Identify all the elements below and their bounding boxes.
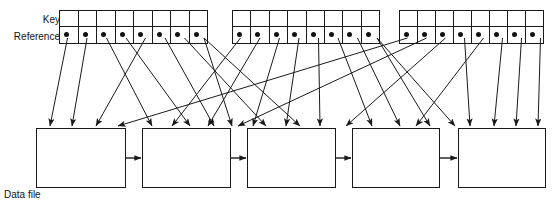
reference-cell[interactable] [471, 26, 490, 44]
reference-pointer-dot-icon [292, 32, 297, 37]
pointer-2-6 [338, 38, 372, 126]
reference-pointer-dot-icon [274, 32, 279, 37]
key-cell[interactable] [78, 10, 98, 27]
reference-row [60, 27, 216, 44]
reference-pointer-dot-icon [237, 32, 242, 37]
reference-pointer-dot-icon [101, 32, 106, 37]
index-block-2 [233, 10, 388, 44]
reference-cell[interactable] [78, 26, 98, 44]
reference-pointer-dot-icon [157, 32, 162, 37]
pointer-2-4 [286, 38, 299, 126]
reference-cell[interactable] [489, 26, 508, 44]
reference-cell[interactable] [59, 26, 79, 44]
reference-cell[interactable] [342, 26, 361, 44]
key-cell[interactable] [342, 10, 361, 27]
pointer-1-2 [72, 38, 87, 126]
reference-cell[interactable] [96, 26, 116, 44]
key-cell[interactable] [417, 10, 436, 27]
key-cell[interactable] [189, 10, 209, 27]
key-cell[interactable] [232, 10, 251, 27]
reference-pointer-dot-icon [530, 32, 535, 37]
key-row [233, 10, 388, 27]
key-cell[interactable] [435, 10, 454, 27]
data-box-1[interactable] [36, 128, 126, 188]
pointer-3-8 [538, 38, 541, 126]
pointer-link-group [50, 38, 541, 126]
key-cell[interactable] [507, 10, 526, 27]
reference-cell[interactable] [170, 26, 190, 44]
key-cell[interactable] [96, 10, 116, 27]
reference-pointer-dot-icon [366, 32, 371, 37]
key-cell[interactable] [399, 10, 418, 27]
pointer-2-5 [319, 38, 321, 126]
reference-cell[interactable] [115, 26, 135, 44]
reference-pointer-dot-icon [175, 32, 180, 37]
pointer-2-8 [377, 38, 430, 126]
key-cell[interactable] [361, 10, 380, 27]
data-box-2[interactable] [142, 128, 231, 188]
key-cell[interactable] [250, 10, 269, 27]
pointer-cross-b [377, 38, 455, 126]
data-box-4[interactable] [352, 128, 440, 188]
reference-pointer-dot-icon [120, 32, 125, 37]
reference-cell[interactable] [152, 26, 172, 44]
data-file-label: Data file [4, 189, 41, 200]
key-row [400, 10, 552, 27]
reference-row [400, 27, 552, 44]
data-box-3[interactable] [247, 128, 336, 188]
pointer-1-1 [50, 38, 68, 126]
reference-cell[interactable] [133, 26, 153, 44]
reference-cell[interactable] [189, 26, 209, 44]
reference-cell[interactable] [507, 26, 526, 44]
reference-cell[interactable] [324, 26, 343, 44]
reference-cell[interactable] [399, 26, 418, 44]
reference-pointer-dot-icon [458, 32, 463, 37]
pointer-1-4 [126, 38, 190, 126]
key-cell[interactable] [287, 10, 306, 27]
reference-cell[interactable] [232, 26, 251, 44]
reference-cell[interactable] [525, 26, 544, 44]
reference-cell[interactable] [453, 26, 472, 44]
key-cell[interactable] [471, 10, 490, 27]
key-row [60, 10, 216, 27]
index-block-3 [400, 10, 552, 44]
reference-pointer-dot-icon [494, 32, 499, 37]
key-cell[interactable] [306, 10, 325, 27]
reference-pointer-dot-icon [440, 32, 445, 37]
key-cell[interactable] [453, 10, 472, 27]
reference-pointer-dot-icon [476, 32, 481, 37]
pointer-1-5 [96, 38, 146, 126]
reference-pointer-dot-icon [404, 32, 409, 37]
pointer-3-7 [516, 38, 522, 126]
key-cell[interactable] [324, 10, 343, 27]
reference-cell[interactable] [287, 26, 306, 44]
reference-pointer-dot-icon [138, 32, 143, 37]
reference-row-label: Reference [14, 31, 60, 42]
reference-pointer-dot-icon [194, 32, 199, 37]
pointer-3-3 [346, 38, 446, 126]
key-cell[interactable] [59, 10, 79, 27]
pointer-3-4 [465, 38, 471, 126]
pointer-3-5 [416, 38, 484, 126]
key-cell[interactable] [170, 10, 190, 27]
pointer-3-1 [118, 38, 408, 126]
key-cell[interactable] [115, 10, 135, 27]
reference-pointer-dot-icon [64, 32, 69, 37]
key-cell[interactable] [152, 10, 172, 27]
reference-pointer-dot-icon [422, 32, 427, 37]
key-cell[interactable] [489, 10, 508, 27]
key-cell[interactable] [525, 10, 544, 27]
reference-pointer-dot-icon [347, 32, 352, 37]
diagram-canvas: Key Reference Data file [0, 0, 558, 204]
reference-cell[interactable] [361, 26, 380, 44]
index-block-1 [60, 10, 216, 44]
key-row-label: Key [43, 14, 60, 25]
key-cell[interactable] [133, 10, 153, 27]
data-box-5[interactable] [458, 128, 546, 188]
reference-cell[interactable] [435, 26, 454, 44]
reference-cell[interactable] [306, 26, 325, 44]
reference-cell[interactable] [417, 26, 436, 44]
key-cell[interactable] [269, 10, 288, 27]
reference-cell[interactable] [250, 26, 269, 44]
reference-cell[interactable] [269, 26, 288, 44]
